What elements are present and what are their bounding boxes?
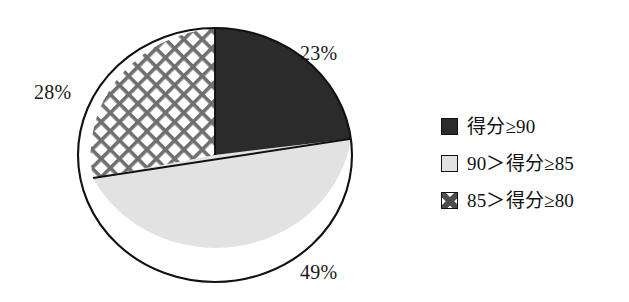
slice-value-label-dark: 23%	[300, 42, 338, 65]
dark-solid-swatch-icon	[441, 118, 458, 135]
pie-slice-crosshatch	[91, 28, 215, 178]
pie-chart-figure: 23% 49% 28% 得分≥90 90＞得分≥85 85＞得分≥80	[0, 0, 629, 302]
crosshatch-swatch-icon	[441, 192, 458, 209]
legend-item-score-ge-90: 得分≥90	[441, 108, 626, 145]
legend-item-label: 得分≥90	[467, 117, 535, 136]
slice-value-label-crosshatch: 28%	[34, 81, 72, 104]
legend-item-score-80-to-85: 85＞得分≥80	[441, 182, 626, 219]
legend-item-score-85-to-90: 90＞得分≥85	[441, 145, 626, 182]
light-solid-swatch-icon	[441, 155, 458, 172]
slice-value-label-light: 49%	[300, 261, 338, 284]
chart-legend: 得分≥90 90＞得分≥85 85＞得分≥80	[441, 108, 626, 219]
legend-item-label: 85＞得分≥80	[467, 191, 574, 210]
legend-item-label: 90＞得分≥85	[467, 154, 574, 173]
